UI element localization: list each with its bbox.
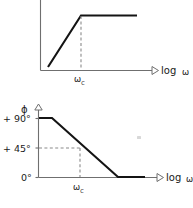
phase-corner-frequency-subscript: c [80, 187, 84, 195]
magnitude-x-axis-arrow-icon [152, 67, 159, 75]
bode-plot-figure: ω c log ω ϕ + 90° + 45° 0° [0, 0, 193, 208]
phase-y-axis-arrow-icon [35, 104, 42, 110]
magnitude-plot-group: ω c log ω [41, 0, 190, 87]
phase-plot-group: ϕ + 90° + 45° 0° ω c [3, 104, 193, 195]
bode-plot-svg: ω c log ω ϕ + 90° + 45° 0° [0, 0, 193, 208]
phase-y-tick-label-90: + 90° [3, 113, 31, 124]
phase-x-axis-omega-symbol: ω [186, 174, 193, 184]
magnitude-corner-frequency-subscript: c [81, 79, 85, 87]
phase-asymptote-curve [39, 118, 145, 177]
phase-x-axis-label: log [166, 172, 181, 183]
scan-artifact [137, 136, 141, 139]
phase-y-tick-label-45: + 45° [3, 143, 31, 154]
phase-y-tick-label-0: 0° [21, 172, 32, 183]
magnitude-x-axis-label: log [161, 65, 176, 76]
magnitude-x-axis-omega-symbol: ω [182, 67, 189, 77]
phase-x-axis-arrow-icon [157, 174, 164, 182]
magnitude-asymptote-curve [48, 16, 137, 68]
